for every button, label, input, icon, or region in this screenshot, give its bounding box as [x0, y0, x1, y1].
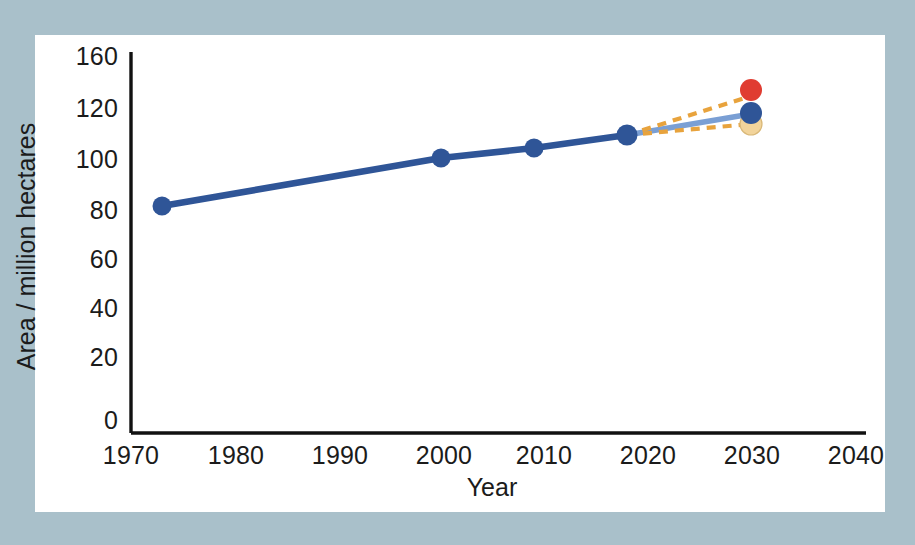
series-historical-line [162, 135, 627, 206]
y-tick-label-60: 60 [46, 245, 118, 274]
x-tick-label-1970: 1970 [103, 441, 159, 470]
chart-figure: 160 120 100 80 60 40 20 0 1970 1980 1990… [0, 0, 915, 545]
y-tick-label-100: 100 [46, 145, 118, 174]
x-tick-label-2010: 2010 [516, 441, 572, 470]
x-tick-label-1980: 1980 [208, 441, 264, 470]
data-point-1973 [153, 197, 172, 216]
x-tick-label-1990: 1990 [312, 441, 368, 470]
x-tick-label-2040: 2040 [828, 441, 884, 470]
y-axis-title: Area / million hectares [12, 82, 41, 412]
y-tick-label-120: 120 [46, 94, 118, 123]
data-point-2018 [617, 125, 638, 146]
y-tick-label-40: 40 [46, 294, 118, 323]
y-tick-label-20: 20 [46, 343, 118, 372]
data-point-2000 [432, 149, 451, 168]
y-tick-label-80: 80 [46, 196, 118, 225]
y-tick-label-160: 160 [46, 42, 118, 71]
x-axis-title: Year [131, 473, 853, 502]
x-tick-label-2030: 2030 [724, 441, 780, 470]
data-point-2009 [525, 139, 544, 158]
x-tick-label-2000: 2000 [416, 441, 472, 470]
x-tick-label-2020: 2020 [620, 441, 676, 470]
y-tick-label-0: 0 [46, 406, 118, 435]
data-point-2030-high [740, 79, 762, 101]
data-point-2030-mid [740, 102, 762, 124]
